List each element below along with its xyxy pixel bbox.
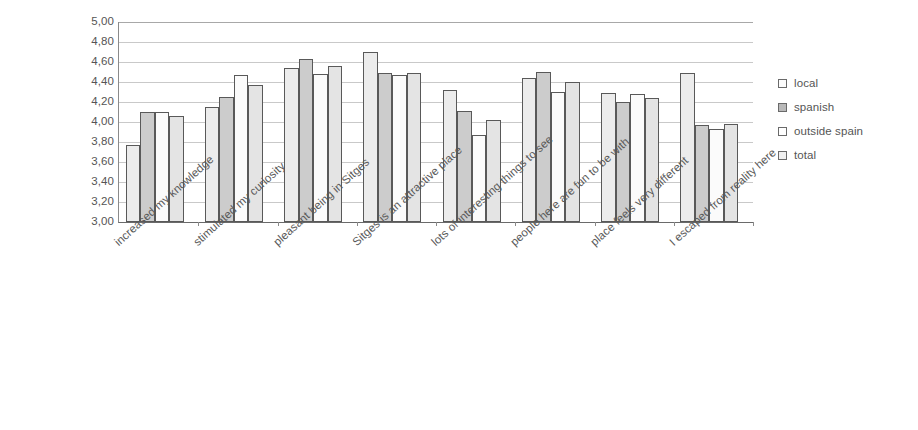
bar — [551, 92, 566, 222]
x-axis-tick-mark — [357, 222, 358, 226]
bar-group — [119, 22, 198, 222]
legend-swatch-icon — [778, 127, 787, 136]
x-axis-tick-mark — [515, 222, 516, 226]
bar — [616, 102, 631, 222]
bar — [645, 98, 660, 222]
y-axis-tick-label: 5,00 — [58, 16, 114, 28]
bar — [205, 107, 220, 222]
bar — [536, 72, 551, 222]
bar — [234, 75, 249, 222]
bar — [155, 112, 170, 222]
bar — [169, 116, 184, 222]
bar — [313, 74, 328, 222]
bar-chart: 5,004,804,604,404,204,003,803,603,403,20… — [0, 0, 918, 430]
legend-item: total — [778, 144, 913, 166]
bar — [248, 85, 263, 222]
y-axis-tick-label: 3,60 — [58, 156, 114, 168]
bar-group — [357, 22, 436, 222]
bar-group — [674, 22, 753, 222]
plot-area — [118, 22, 753, 223]
bar — [565, 82, 580, 222]
y-axis-tick-label: 3,40 — [58, 176, 114, 188]
bar-group — [515, 22, 594, 222]
bar — [140, 112, 155, 222]
bar-group — [595, 22, 674, 222]
bar — [378, 73, 393, 222]
y-axis: 5,004,804,604,404,204,003,803,603,403,20… — [58, 22, 114, 222]
bar — [457, 111, 472, 222]
x-axis-tick-mark — [278, 222, 279, 226]
x-axis-tick-mark — [198, 222, 199, 226]
bar-group — [198, 22, 277, 222]
y-axis-tick-label: 3,20 — [58, 196, 114, 208]
legend-item-label: spanish — [794, 101, 834, 113]
legend-item: spanish — [778, 96, 913, 118]
bar-group — [436, 22, 515, 222]
bar — [363, 52, 378, 222]
legend-item: local — [778, 72, 913, 94]
legend-swatch-icon — [778, 103, 787, 112]
bar-group — [278, 22, 357, 222]
legend-item-label: outside spain — [794, 125, 863, 137]
bar — [443, 90, 458, 222]
y-axis-tick-label: 3,00 — [58, 216, 114, 228]
legend-item: outside spain — [778, 120, 913, 142]
bar — [299, 59, 314, 222]
x-axis-tick-mark — [436, 222, 437, 226]
bars-layer — [119, 22, 753, 222]
bar — [472, 135, 487, 222]
bar — [522, 78, 537, 222]
bar — [219, 97, 234, 222]
bar — [709, 129, 724, 222]
legend-swatch-icon — [778, 151, 787, 160]
y-axis-tick-label: 4,40 — [58, 76, 114, 88]
bar — [724, 124, 739, 222]
bar — [392, 75, 407, 222]
bar — [284, 68, 299, 222]
bar — [680, 73, 695, 222]
y-axis-tick-label: 3,80 — [58, 136, 114, 148]
bar — [126, 145, 141, 222]
chart-legend: localspanishoutside spaintotal — [778, 72, 913, 168]
bar — [630, 94, 645, 222]
x-axis-tick-mark — [595, 222, 596, 226]
y-axis-tick-label: 4,80 — [58, 36, 114, 48]
bar — [601, 93, 616, 222]
y-axis-tick-label: 4,20 — [58, 96, 114, 108]
x-axis-tick-mark — [674, 222, 675, 226]
bar — [486, 120, 501, 222]
legend-item-label: total — [794, 149, 816, 161]
bar — [407, 73, 422, 222]
y-axis-tick-label: 4,00 — [58, 116, 114, 128]
y-axis-tick-label: 4,60 — [58, 56, 114, 68]
legend-item-label: local — [794, 77, 818, 89]
x-axis-tick-mark — [753, 222, 754, 226]
bar — [695, 125, 710, 222]
bar — [328, 66, 343, 222]
legend-swatch-icon — [778, 79, 787, 88]
